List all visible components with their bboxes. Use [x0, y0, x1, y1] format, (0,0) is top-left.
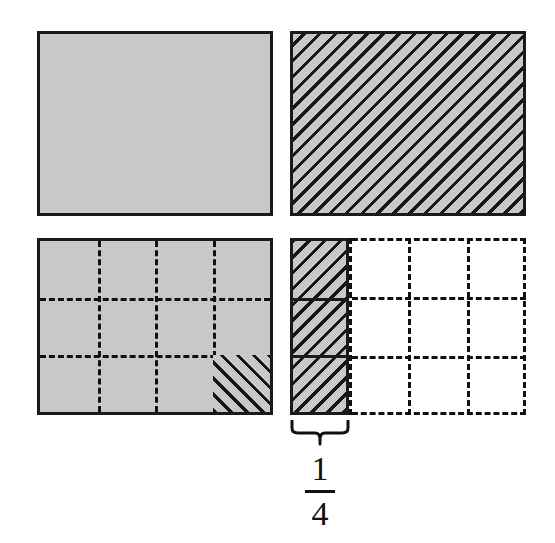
hatched-cell-bottom-right — [213, 355, 271, 412]
grid-hline-1 — [40, 298, 270, 301]
fraction-denominator: 4 — [290, 497, 350, 531]
grid-vline-3 — [467, 238, 470, 415]
curly-brace — [290, 420, 350, 446]
column-rule-2 — [290, 355, 349, 358]
grid-shaded-rectangle — [37, 238, 273, 415]
fully-hatched-rectangle — [290, 31, 526, 216]
fraction-label: 1 4 — [290, 452, 350, 531]
column-rule-1 — [290, 298, 349, 301]
grid-fraction-rectangle — [290, 238, 526, 415]
curly-brace-icon — [290, 420, 350, 446]
dashed-grid — [40, 241, 270, 412]
hatched-left-column — [290, 238, 349, 415]
fraction-numerator: 1 — [290, 452, 350, 486]
grid-vline-1 — [349, 238, 352, 415]
solid-shaded-rectangle — [37, 31, 273, 216]
fraction-bar — [305, 490, 335, 493]
grid-vline-2 — [408, 238, 411, 415]
figure-canvas: 1 4 — [0, 0, 555, 543]
grid-vline-2 — [155, 241, 158, 412]
grid-vline-1 — [98, 241, 101, 412]
